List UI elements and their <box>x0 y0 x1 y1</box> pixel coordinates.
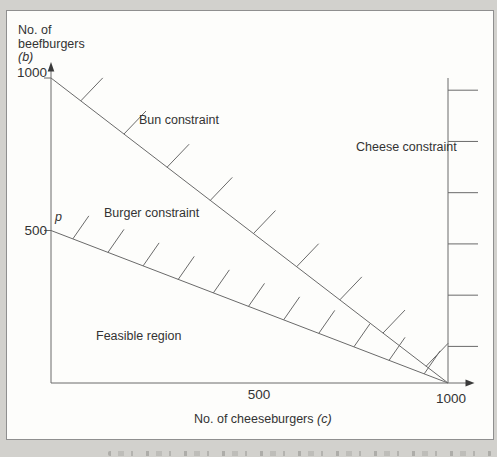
screenshot-stage: No. of beefburgers (b) 1000 500 p Bun co… <box>0 0 497 457</box>
bun-constraint-hatch-mark <box>210 177 232 200</box>
x-axis-title-text: No. of cheeseburgers <box>194 412 314 426</box>
bun-constraint-hatch-mark <box>383 310 405 333</box>
x-tick-label-500: 500 <box>239 388 279 402</box>
burger-constraint-label: Burger constraint <box>104 207 199 221</box>
burger-constraint-hatch-mark <box>389 337 405 360</box>
y-tick-label-500: 500 <box>11 224 47 238</box>
y-axis-title-line2: beefburgers <box>18 38 85 52</box>
burger-constraint-hatch-mark <box>249 283 265 306</box>
burger-constraint-hatch-mark <box>213 270 229 293</box>
bun-constraint-hatch-mark <box>297 244 319 267</box>
bun-constraint-hatch-mark <box>253 211 275 234</box>
point-p-label: p <box>55 211 62 225</box>
figure-panel: No. of beefburgers (b) 1000 500 p Bun co… <box>6 10 494 440</box>
x-axis-variable: (c) <box>317 412 332 426</box>
bun-constraint-hatch-mark <box>81 78 103 101</box>
y-axis-title-line1: No. of <box>18 24 85 38</box>
burger-constraint-hatch-mark <box>73 216 89 239</box>
burger-constraint-hatch-mark <box>284 297 300 320</box>
x-tick-label-1000: 1000 <box>431 392 471 406</box>
burger-constraint-hatch-mark <box>319 310 335 333</box>
bun-constraint-label: Bun constraint <box>139 114 219 128</box>
y-axis-variable: (b) <box>18 51 85 65</box>
constraint-diagram <box>7 11 493 439</box>
feasible-region-label: Feasible region <box>96 330 181 344</box>
bun-constraint-hatch-mark <box>340 277 362 300</box>
bun-constraint-hatch-mark <box>167 144 189 167</box>
burger-constraint-hatch-mark <box>354 324 370 347</box>
x-axis-title: No. of cheeseburgers (c) <box>194 413 332 427</box>
burger-constraint-hatch-mark <box>108 229 124 252</box>
x-axis-arrow-icon <box>466 380 475 387</box>
y-axis-title: No. of beefburgers (b) <box>18 24 85 65</box>
cheese-constraint-label: Cheese constraint <box>356 141 457 155</box>
y-tick-label-1000: 1000 <box>11 66 47 80</box>
burger-constraint-line <box>51 231 448 384</box>
burger-constraint-hatch-mark <box>178 256 194 279</box>
cropped-caption-fragments <box>108 451 492 456</box>
burger-constraint-hatch-mark <box>143 243 159 266</box>
